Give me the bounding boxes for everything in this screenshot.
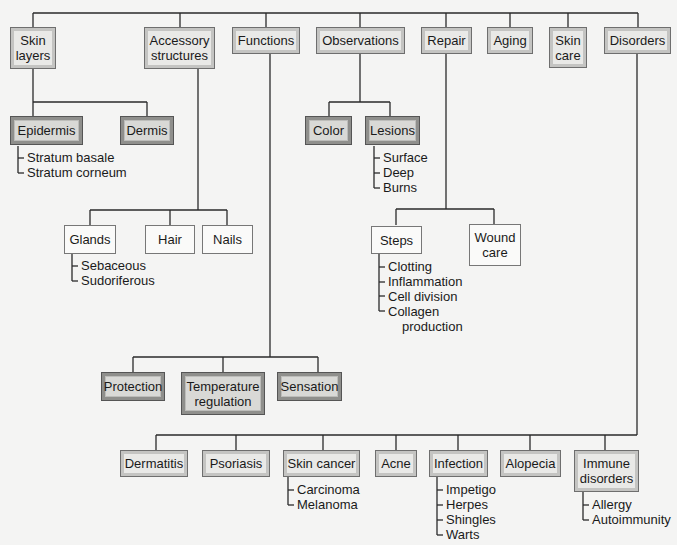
node-nails: Nails	[202, 225, 253, 254]
node-label: care	[555, 48, 580, 63]
node-label: Protection	[104, 379, 163, 394]
node-label: Repair	[427, 33, 465, 48]
node-label: Temperature	[187, 379, 260, 394]
list-item: Herpes	[446, 497, 496, 512]
node-functions: Functions	[232, 27, 300, 54]
node-wound-care: Wound care	[469, 224, 521, 266]
node-glands: Glands	[64, 225, 116, 254]
node-acne: Acne	[375, 450, 417, 477]
node-label: Glands	[69, 232, 110, 247]
node-skin-care: Skin care	[549, 27, 587, 68]
node-label: Infection	[434, 456, 483, 471]
node-skin-cancer: Skin cancer	[283, 450, 360, 477]
node-label: Aging	[493, 33, 526, 48]
node-label: Psoriasis	[210, 456, 263, 471]
node-label: Wound	[475, 230, 516, 245]
list-item: Stratum corneum	[27, 165, 127, 180]
node-observations: Observations	[316, 27, 405, 54]
immune-disorders-list: Allergy Autoimmunity	[592, 497, 671, 527]
node-aging: Aging	[487, 27, 533, 54]
epidermis-list: Stratum basale Stratum corneum	[27, 150, 127, 180]
node-label: structures	[151, 48, 208, 63]
node-label: Lesions	[370, 123, 415, 138]
list-item: Sebaceous	[81, 258, 155, 273]
list-item: Autoimmunity	[592, 512, 671, 527]
node-temperature-regulation: Temperature regulation	[181, 372, 265, 415]
node-steps: Steps	[371, 226, 422, 254]
list-item: Cell division	[388, 289, 463, 304]
node-label: Accessory	[150, 33, 210, 48]
list-item: Warts	[446, 527, 496, 542]
list-item: Stratum basale	[27, 150, 127, 165]
list-item: Burns	[383, 180, 428, 195]
node-label: Sensation	[281, 379, 339, 394]
node-color: Color	[305, 116, 352, 145]
list-item: Shingles	[446, 512, 496, 527]
node-skin-layers: Skin layers	[10, 27, 56, 69]
list-item: Inflammation	[388, 274, 463, 289]
node-immune-disorders: Immune disorders	[574, 450, 639, 492]
list-item: Impetigo	[446, 482, 496, 497]
node-psoriasis: Psoriasis	[202, 450, 270, 477]
node-label: Alopecia	[506, 456, 556, 471]
skin-cancer-list: Carcinoma Melanoma	[297, 482, 360, 512]
node-dermis: Dermis	[120, 116, 174, 145]
node-label: layers	[16, 48, 51, 63]
node-hair: Hair	[145, 225, 195, 254]
node-label: Dermis	[126, 123, 167, 138]
node-label: Hair	[158, 232, 182, 247]
node-epidermis: Epidermis	[10, 116, 83, 145]
node-label: Acne	[381, 456, 411, 471]
list-item: Carcinoma	[297, 482, 360, 497]
list-item: Surface	[383, 150, 428, 165]
node-label: Epidermis	[18, 123, 76, 138]
list-item: Clotting	[388, 259, 463, 274]
node-label: Disorders	[610, 33, 666, 48]
node-label: Color	[313, 123, 344, 138]
glands-list: Sebaceous Sudoriferous	[81, 258, 155, 288]
list-item: production	[388, 319, 463, 334]
infection-list: Impetigo Herpes Shingles Warts	[446, 482, 496, 542]
list-item: Collagen	[388, 304, 463, 319]
node-label: disorders	[580, 471, 633, 486]
node-lesions: Lesions	[365, 116, 420, 145]
node-label: care	[482, 245, 507, 260]
node-label: Functions	[238, 33, 294, 48]
node-label: Immune	[583, 456, 630, 471]
node-label: Skin	[555, 33, 580, 48]
node-alopecia: Alopecia	[500, 450, 561, 477]
node-label: Skin cancer	[288, 456, 356, 471]
list-item: Deep	[383, 165, 428, 180]
list-item: Melanoma	[297, 497, 360, 512]
list-item: Sudoriferous	[81, 273, 155, 288]
lesions-list: Surface Deep Burns	[383, 150, 428, 195]
node-repair: Repair	[421, 27, 472, 54]
node-label: Dermatitis	[125, 456, 184, 471]
node-label: Nails	[213, 232, 242, 247]
node-sensation: Sensation	[277, 372, 342, 401]
node-label: Steps	[380, 233, 413, 248]
node-label: Skin	[20, 33, 45, 48]
node-protection: Protection	[101, 372, 165, 401]
node-disorders: Disorders	[604, 27, 671, 54]
node-accessory-structures: Accessory structures	[144, 27, 215, 69]
node-dermatitis: Dermatitis	[120, 450, 188, 477]
node-infection: Infection	[429, 450, 488, 477]
steps-list: Clotting Inflammation Cell division Coll…	[388, 259, 463, 334]
list-item: Allergy	[592, 497, 671, 512]
node-label: Observations	[322, 33, 399, 48]
node-label: regulation	[194, 394, 251, 409]
